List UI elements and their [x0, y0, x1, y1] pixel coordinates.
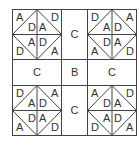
label-inner: D [114, 112, 122, 124]
label-corner: D [51, 11, 59, 23]
label-corner: D [126, 45, 134, 57]
quilt-block-diagram: A D D A D A A D D A A D A D D A D A A D … [0, 0, 139, 146]
label-corner: D [51, 121, 59, 133]
label-inner: A [39, 21, 47, 33]
label-center-b: B [71, 66, 78, 78]
label-inner: A [28, 36, 36, 48]
label-corner: A [91, 87, 99, 99]
label-inner: D [103, 97, 111, 109]
label-corner: D [91, 11, 99, 23]
label-corner: A [16, 121, 24, 133]
label-corner: A [91, 45, 99, 57]
label-corner: D [16, 87, 24, 99]
label-inner: D [28, 112, 36, 124]
label-top-c: C [71, 28, 79, 40]
label-corner: D [16, 45, 24, 57]
label-corner: D [91, 121, 99, 133]
quadrant-bottom-right: A D D A D A A D [88, 86, 137, 136]
label-inner: D [28, 21, 36, 33]
label-inner: A [39, 112, 47, 124]
quadrant-bottom-left: D A A D A D D A [13, 86, 62, 136]
label-corner: A [16, 11, 24, 23]
label-bottom-c: C [71, 104, 79, 116]
label-inner: A [114, 97, 122, 109]
label-inner: A [103, 21, 111, 33]
label-inner: A [28, 97, 36, 109]
label-corner: A [51, 87, 59, 99]
label-corner: A [126, 11, 134, 23]
label-inner: A [103, 112, 111, 124]
label-inner: D [114, 21, 122, 33]
label-corner: A [51, 45, 59, 57]
quadrant-top-left: A D D A D A A D [13, 10, 62, 60]
label-inner: A [114, 36, 122, 48]
label-right-c: C [108, 66, 116, 78]
label-left-c: C [33, 66, 41, 78]
label-corner: D [126, 87, 134, 99]
label-inner: D [103, 36, 111, 48]
quadrant-top-right: D A A D A D D A [88, 10, 137, 60]
label-inner: D [39, 36, 47, 48]
label-inner: D [39, 97, 47, 109]
label-corner: A [126, 121, 134, 133]
